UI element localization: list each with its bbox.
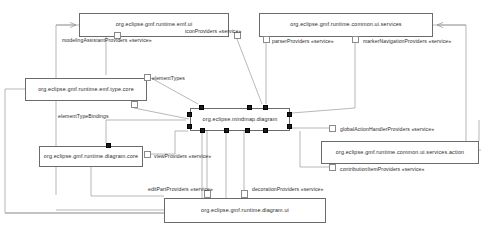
- interface-stub-element-types[interactable]: [144, 74, 151, 81]
- component-common-ui-services[interactable]: org.eclipse.gmf.runtime.common.ui.servic…: [259, 13, 433, 37]
- port-port-diagram-core-top[interactable]: [106, 143, 111, 148]
- interface-stub-contribution-item-providers[interactable]: [329, 164, 336, 171]
- interface-label-element-type-bindings: elementTypeBindings: [58, 114, 109, 119]
- port-port-top-3[interactable]: [263, 105, 268, 110]
- component-emf-type-core[interactable]: org.eclipse.gmf.runtime.emf.type.core: [25, 78, 147, 101]
- component-label: org.eclipse.gmf.runtime.emf.ui: [116, 22, 193, 27]
- component-common-ui-services-action[interactable]: org.eclipse.gmf.runtime.common.ui.servic…: [321, 141, 479, 164]
- wire-viewproviders-to-node: [151, 131, 188, 154]
- interface-stub-view-providers[interactable]: [144, 151, 151, 158]
- interface-label-parser-providers: parserProviders «service»: [272, 39, 334, 44]
- component-label: org.eclipse.mindmap.diagram: [203, 117, 278, 122]
- port-port-right-2[interactable]: [287, 124, 292, 129]
- port-port-left-1[interactable]: [187, 112, 192, 117]
- interface-stub-marker-navigation-providers[interactable]: [352, 36, 359, 43]
- interface-stub-element-type-bindings[interactable]: [131, 101, 138, 108]
- wire-diagramcore-top-up: [106, 120, 186, 143]
- interface-stub-decoration-providers[interactable]: [241, 190, 248, 198]
- interface-stub-global-action-handler-providers[interactable]: [329, 125, 336, 132]
- interface-label-contribution-item-providers: contributionItemProviders «service»: [340, 167, 424, 172]
- component-diagram-canvas: org.eclipse.gmf.runtime.emf.uiorg.eclips…: [0, 0, 489, 233]
- component-diagram-ui[interactable]: org.eclipse.gmf.runtime.diagram.ui: [164, 198, 326, 223]
- port-port-top-2[interactable]: [247, 105, 252, 110]
- interface-label-element-types: elementTypes: [152, 76, 185, 81]
- port-port-bottom-3[interactable]: [245, 128, 250, 133]
- component-diagram-core[interactable]: org.eclipse.gmf.runtime.diagram.core: [39, 146, 143, 167]
- interface-label-icon-providers: iconProviders «service»: [185, 29, 241, 34]
- port-port-bottom-2[interactable]: [224, 128, 229, 133]
- interface-label-view-providers: viewProviders «service»: [154, 154, 211, 159]
- component-label: org.eclipse.gmf.runtime.common.ui.servic…: [336, 150, 464, 155]
- wire-emfui-to-left-rail: [56, 25, 79, 195]
- interface-label-edit-part-providers: editPartProviders «service»: [148, 187, 213, 192]
- wire-iconproviders-down: [237, 39, 262, 104]
- port-port-left-2[interactable]: [187, 124, 192, 129]
- component-label: org.eclipse.gmf.runtime.diagram.ui: [201, 208, 289, 213]
- port-port-bottom-1[interactable]: [200, 128, 205, 133]
- wire-elementtypebindings-to-node: [134, 108, 189, 119]
- component-mindmap-diagram[interactable]: org.eclipse.mindmap.diagram: [190, 108, 290, 131]
- component-label: org.eclipse.gmf.runtime.common.ui.servic…: [290, 22, 401, 27]
- interface-label-decoration-providers: decorationProviders «service»: [252, 187, 323, 192]
- interface-label-modeling-assistant-providers: modelingAssistantProviders «service»: [62, 38, 152, 43]
- port-port-top-1[interactable]: [199, 105, 204, 110]
- interface-stub-parser-providers[interactable]: [263, 36, 270, 43]
- interface-label-global-action-handler-providers: globalActionHandlerProviders «service»: [340, 127, 434, 132]
- wire-marker-down: [292, 43, 355, 113]
- port-port-right-1[interactable]: [287, 112, 292, 117]
- component-label: org.eclipse.gmf.runtime.emf.type.core: [38, 87, 134, 92]
- interface-label-marker-navigation-providers: markerNavigationProviders «service»: [363, 39, 451, 44]
- wire-elementtypes-to-node: [151, 78, 198, 104]
- component-label: org.eclipse.gmf.runtime.diagram.core: [44, 154, 138, 159]
- port-port-bottom-4[interactable]: [263, 128, 268, 133]
